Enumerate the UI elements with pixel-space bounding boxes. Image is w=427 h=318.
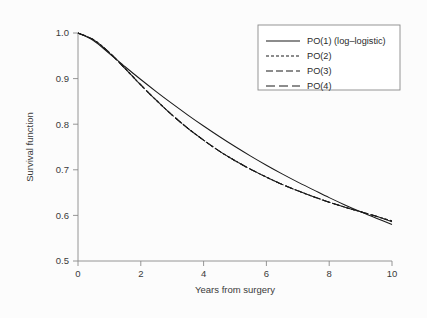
y-tick-label: 1.0 bbox=[56, 27, 69, 38]
y-tick-label: 0.6 bbox=[56, 210, 69, 221]
legend-label-3: PO(3) bbox=[307, 66, 332, 76]
y-tick-label: 0.5 bbox=[56, 255, 69, 266]
chart-legend: PO(1) (log–logistic)PO(2)PO(3)PO(4) bbox=[258, 25, 400, 91]
y-tick-label: 0.7 bbox=[56, 164, 69, 175]
legend-label-4: PO(4) bbox=[307, 81, 332, 91]
y-axis-title: Survival function bbox=[24, 112, 35, 182]
x-axis-title: Years from surgery bbox=[195, 284, 275, 295]
x-tick-label: 6 bbox=[264, 268, 269, 279]
x-tick-label: 2 bbox=[138, 268, 143, 279]
y-tick-label: 0.9 bbox=[56, 73, 69, 84]
survival-function-chart: 0.50.60.70.80.91.0 0246810 Survival func… bbox=[0, 0, 427, 318]
x-tick-label: 10 bbox=[387, 268, 398, 279]
legend-label-2: PO(2) bbox=[307, 51, 332, 61]
x-tick-label: 8 bbox=[327, 268, 332, 279]
chart-figure: 0.50.60.70.80.91.0 0246810 Survival func… bbox=[0, 0, 427, 318]
y-tick-label: 0.8 bbox=[56, 119, 69, 130]
x-tick-label: 0 bbox=[75, 268, 80, 279]
legend-label-1: PO(1) (log–logistic) bbox=[307, 36, 386, 46]
x-tick-label: 4 bbox=[201, 268, 206, 279]
